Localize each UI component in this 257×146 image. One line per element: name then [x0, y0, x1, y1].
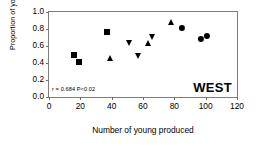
data-point-circle	[198, 36, 204, 42]
y-tick-label: 0.8	[33, 25, 44, 33]
y-axis-label-text: Proportion of young lost	[7, 0, 19, 61]
data-point-square	[104, 29, 110, 35]
y-axis-label: Proportion of young lost	[7, 0, 19, 61]
y-tick-mark	[46, 63, 49, 64]
data-point-circle	[204, 33, 210, 39]
x-tick-label: 40	[107, 102, 116, 110]
y-tick-mark	[46, 12, 49, 13]
data-point-triangle-down	[135, 53, 141, 59]
data-point-square	[76, 59, 82, 65]
data-point-triangle-down	[126, 40, 132, 46]
x-tick-label: 120	[230, 102, 244, 110]
data-point-square	[71, 52, 77, 58]
x-tick-mark	[80, 97, 81, 100]
x-tick-label: 20	[76, 102, 85, 110]
x-tick-mark	[143, 97, 144, 100]
x-tick-label: 80	[170, 102, 179, 110]
x-tick-mark	[206, 97, 207, 100]
y-tick-mark	[46, 29, 49, 30]
data-point-triangle-down	[149, 34, 155, 40]
x-tick-mark	[237, 97, 238, 100]
y-tick-label: 0.4	[33, 59, 44, 67]
x-tick-mark	[49, 97, 50, 100]
x-tick-label: 0	[47, 102, 52, 110]
y-tick-mark	[46, 46, 49, 47]
plot-area: 0.00.20.40.60.81.0 020406080100120 r = 0…	[48, 11, 238, 98]
data-point-circle	[179, 25, 185, 31]
x-axis-label: Number of young produced	[48, 125, 238, 135]
data-point-triangle-up	[168, 19, 174, 25]
y-tick-label: 1.0	[33, 8, 44, 16]
data-point-triangle-up	[107, 55, 113, 61]
statistics-annotation: r = 0.684 P<0.02	[52, 87, 95, 93]
y-tick-label: 0.0	[33, 93, 44, 101]
x-tick-mark	[112, 97, 113, 100]
panel-label: WEST	[193, 81, 232, 94]
data-point-triangle-up	[145, 40, 151, 46]
scatter-plot-figure: Proportion of young lost 0.00.20.40.60.8…	[0, 0, 257, 146]
x-tick-mark	[174, 97, 175, 100]
y-tick-label: 0.6	[33, 42, 44, 50]
x-tick-label: 100	[199, 102, 213, 110]
y-tick-label: 0.2	[33, 76, 44, 84]
y-tick-mark	[46, 80, 49, 81]
x-tick-label: 60	[138, 102, 147, 110]
